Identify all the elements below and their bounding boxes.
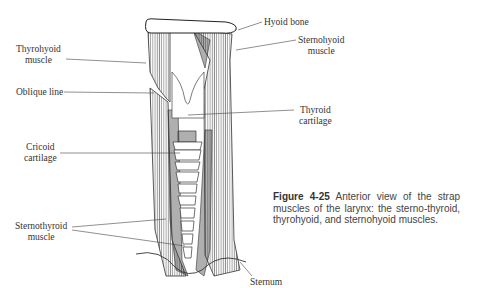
- label-thyrohyoid: Thyrohyoid muscle: [16, 44, 61, 66]
- label-sternothyroid: Sternothyroid muscle: [15, 221, 67, 243]
- label-hyoid-bone: Hyoid bone: [264, 17, 309, 28]
- hyoid-bone: [146, 19, 237, 33]
- label-sternum: Sternum: [250, 277, 282, 288]
- thyroid-cartilage: [172, 72, 204, 118]
- figure-number: Figure 4-25: [273, 191, 330, 202]
- larynx-strap-muscles-illustration: [0, 0, 479, 288]
- label-cricoid-cartilage: Cricoid cartilage: [24, 142, 57, 164]
- label-sternohyoid: Sternohyoid muscle: [298, 35, 344, 57]
- figure-caption: Figure 4-25 Anterior view of the strap m…: [273, 191, 460, 226]
- label-thyroid-cartilage: Thyroid cartilage: [299, 105, 332, 127]
- label-oblique-line: Oblique line: [16, 87, 63, 98]
